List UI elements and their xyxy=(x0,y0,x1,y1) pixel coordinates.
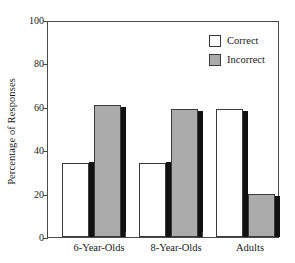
legend-item-incorrect[interactable]: Incorrect xyxy=(209,50,265,69)
y-tick-label-0: 0 xyxy=(22,233,44,243)
y-tick-mark-0 xyxy=(43,238,48,239)
bar-incorrect-8-year-olds[interactable] xyxy=(171,109,198,237)
x-tick-label-8-year-olds: 8-Year-Olds xyxy=(150,241,201,254)
bar-shadow-incorrect-adults xyxy=(275,196,280,237)
y-axis-tick-labels: 100 80 60 40 20 0 xyxy=(22,21,44,238)
y-tick-label-20: 20 xyxy=(22,190,44,200)
bar-shadow-incorrect-8-year-olds xyxy=(198,111,203,237)
bar-incorrect-adults[interactable] xyxy=(248,194,275,237)
bar-incorrect-6-year-olds[interactable] xyxy=(94,105,121,237)
legend-label-correct: Correct xyxy=(227,35,259,46)
y-tick-label-40: 40 xyxy=(22,146,44,156)
legend-label-incorrect: Incorrect xyxy=(227,54,265,65)
bar-shadow-incorrect-6-year-olds xyxy=(121,107,126,237)
legend-item-correct[interactable]: Correct xyxy=(209,31,265,50)
y-tick-label-100: 100 xyxy=(22,16,44,26)
x-axis-separator-1 xyxy=(125,232,126,237)
x-tick-label-6-year-olds: 6-Year-Olds xyxy=(73,241,124,254)
y-tick-label-60: 60 xyxy=(22,103,44,113)
x-axis-tick-labels: 6-Year-Olds 8-Year-Olds Adults xyxy=(47,241,279,259)
legend: Correct Incorrect xyxy=(209,31,265,69)
bar-chart-figure: Percentage of Responses 100 80 60 40 20 … xyxy=(0,0,295,263)
bar-correct-8-year-olds[interactable] xyxy=(139,163,166,237)
x-tick-label-adults: Adults xyxy=(236,241,264,254)
bar-correct-6-year-olds[interactable] xyxy=(62,163,89,237)
y-tick-label-80: 80 xyxy=(22,59,44,69)
x-axis-separator-2 xyxy=(202,232,203,237)
gray-square-icon xyxy=(209,54,221,66)
bar-correct-adults[interactable] xyxy=(216,109,243,237)
y-axis-title: Percentage of Responses xyxy=(0,0,22,263)
white-square-icon xyxy=(209,35,221,47)
